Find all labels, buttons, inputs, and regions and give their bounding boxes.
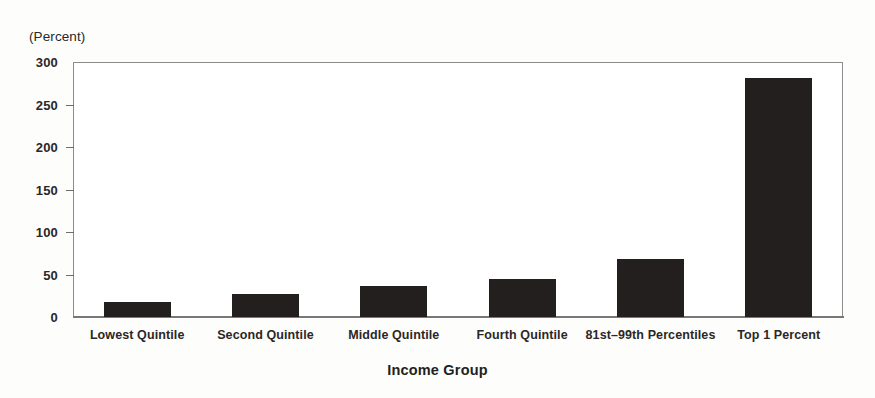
bar — [360, 286, 427, 317]
y-axis-tick-label: 250 — [12, 97, 58, 112]
y-axis-tick-label: 0 — [12, 310, 58, 325]
x-axis-category-label: Top 1 Percent — [737, 328, 820, 342]
x-axis-category-label: Second Quintile — [217, 328, 314, 342]
bar — [232, 294, 299, 317]
x-axis-title: Income Group — [0, 362, 875, 378]
bar — [489, 279, 556, 317]
bar-chart-figure: (Percent) 050100150200250300 Lowest Quin… — [0, 0, 875, 398]
y-axis-tick-label: 150 — [12, 182, 58, 197]
bars-group — [73, 62, 843, 317]
x-axis-category-label: 81st–99th Percentiles — [586, 328, 716, 342]
bar — [745, 78, 812, 317]
x-axis-category-label: Fourth Quintile — [477, 328, 568, 342]
bar — [617, 259, 684, 317]
x-axis-category-label: Middle Quintile — [348, 328, 439, 342]
y-axis-tick-label: 50 — [12, 267, 58, 282]
y-axis-tick-label: 200 — [12, 140, 58, 155]
y-axis-unit-caption: (Percent) — [29, 29, 85, 44]
bar — [104, 302, 171, 317]
y-axis-tick-label: 100 — [12, 225, 58, 240]
y-axis-tick-label: 300 — [12, 55, 58, 70]
x-axis-category-label: Lowest Quintile — [90, 328, 185, 342]
